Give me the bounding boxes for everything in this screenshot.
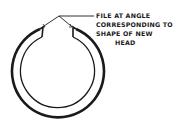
ring-cut-left (40, 27, 43, 37)
leader-line (44, 16, 94, 26)
annotation-line-1: FILE AT ANGLE (96, 13, 150, 19)
ring-inner-edge (20, 37, 94, 108)
ring-cut-right (73, 27, 76, 37)
annotation-line-2: CORRESPONDING TO (96, 22, 173, 28)
annotation-line-4: HEAD (115, 40, 135, 46)
ring-outer-edge (12, 29, 104, 117)
ring-diagram (0, 0, 180, 130)
annotation-line-3: SHAPE OF NEW (96, 31, 153, 37)
